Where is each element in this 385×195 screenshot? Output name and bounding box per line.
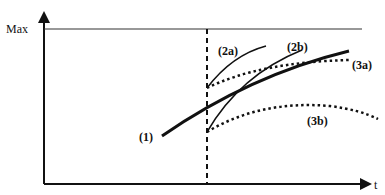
curve-3b [207,105,378,132]
x-axis-arrow-icon [360,178,372,190]
curve-2b-label: (2b) [287,40,308,54]
curve-2a-label: (2a) [218,44,238,58]
x-axis-label: t [374,178,378,192]
y-axis-arrow-icon [38,11,50,23]
curve-3a-label: (3a) [352,58,372,72]
curve-1-label: (1) [139,130,153,144]
curve-3b-label: (3b) [307,114,328,128]
y-axis-label: Max [6,22,28,36]
diagram-canvas: Max t (1) (2a) (2b) (3a) (3b) [0,0,385,195]
curve-2b [207,50,302,132]
